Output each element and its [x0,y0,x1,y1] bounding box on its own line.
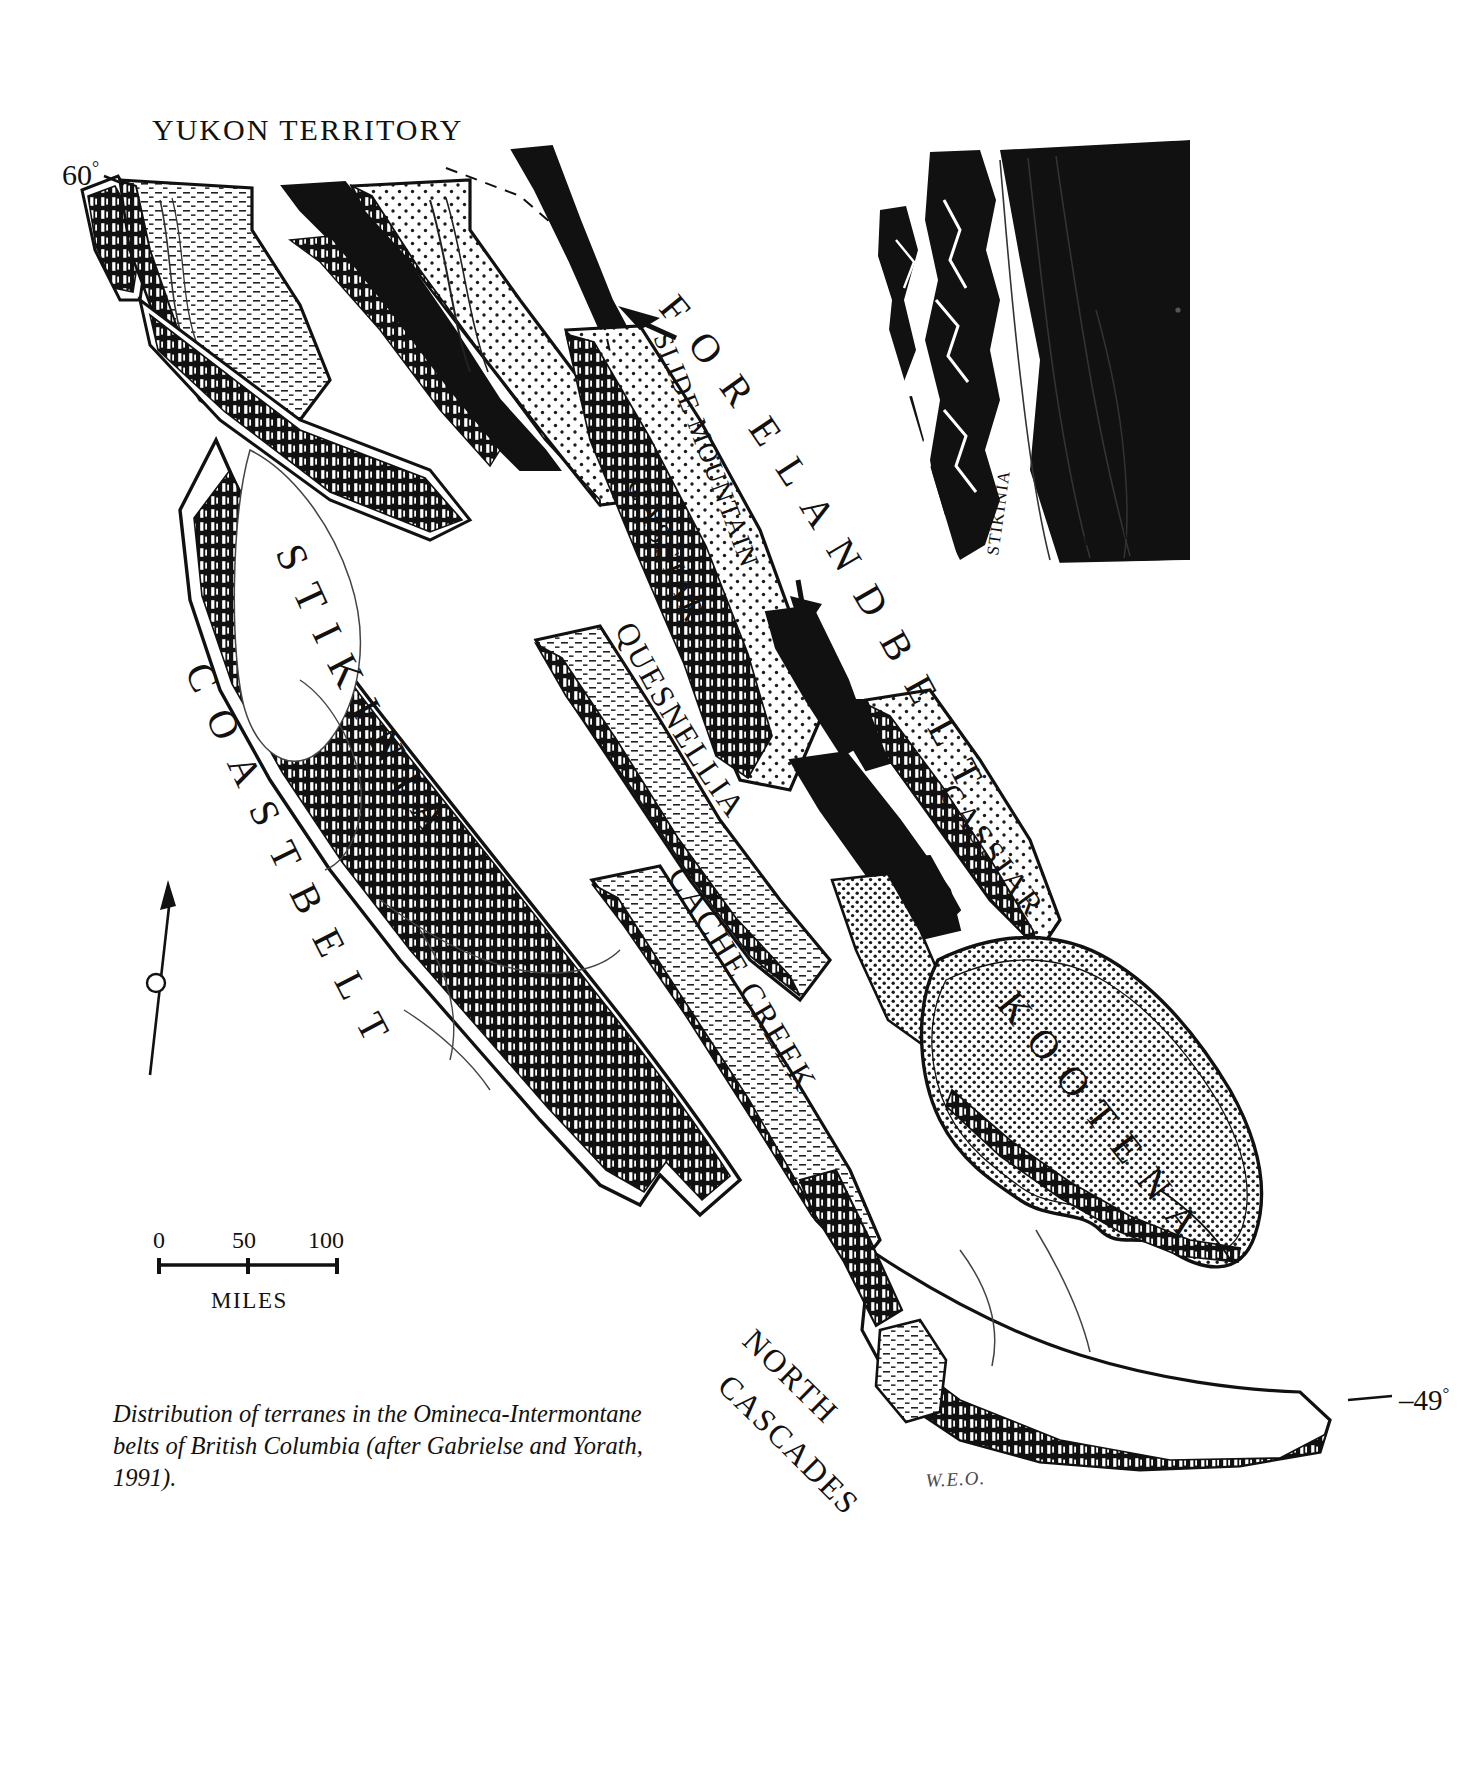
scale-tick-100: 100 [308,1227,344,1254]
scale-tick-50: 50 [232,1227,256,1254]
figure-caption: Distribution of terranes in the Omineca-… [113,1398,673,1494]
scale-units-label: MILES [211,1288,288,1314]
yukon-territory-label: YUKON TERRITORY [152,113,463,147]
latitude-60-label: 60° [62,158,99,192]
latitude-49-label: –49° [1399,1384,1449,1417]
degree-sign-north: ° [92,158,99,178]
artist-signature: W.E.O. [925,1467,986,1492]
latitude-49-value: –49 [1399,1384,1443,1416]
map-figure: F O R E L A N D B E L T SLIDE MOUNTAIN C… [0,0,1483,1770]
degree-sign-south: ° [1443,1384,1450,1403]
terrane-map-canvas: F O R E L A N D B E L T SLIDE MOUNTAIN C… [0,0,1483,1770]
latitude-60-value: 60 [62,158,92,191]
scale-tick-0: 0 [153,1227,165,1254]
